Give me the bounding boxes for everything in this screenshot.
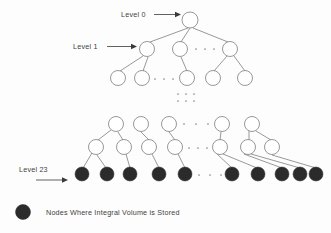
edge-l21a-to-l22a <box>98 130 111 140</box>
edge-l1a-to-l2b <box>143 57 148 71</box>
ellipsis-dot <box>163 78 165 80</box>
ellipsis-level23 <box>198 174 222 176</box>
ellipsis-dot <box>213 48 215 50</box>
edge-l22a-to-l23b <box>97 155 106 168</box>
edge-l22d-to-l23e <box>178 154 185 168</box>
ellipsis-dot <box>195 123 197 125</box>
ellipsis-dot <box>177 93 179 95</box>
ellipsis-dot <box>172 78 174 80</box>
edge-l22b-to-l23c <box>126 154 130 168</box>
ellipsis-level1 <box>195 48 215 50</box>
edge-l21a-to-l22b <box>118 132 123 140</box>
edge-l1c-to-l2d <box>214 56 227 71</box>
node-level1-1 <box>140 42 155 57</box>
level-23-nodes <box>75 167 323 181</box>
level-0-arrow-head-icon <box>175 12 181 18</box>
node-level21-3 <box>162 117 177 132</box>
level-23-label: Level 23 <box>19 165 48 174</box>
ellipsis-dot <box>177 100 179 102</box>
edges-bottom-tree-lower <box>83 153 316 168</box>
level-0-label: Level 0 <box>121 10 146 19</box>
node-level21-5 <box>245 117 260 132</box>
ellipsis-dot <box>207 123 209 125</box>
node-level23-6 <box>225 167 239 181</box>
edge-l22e-to-l23f <box>217 154 232 168</box>
node-level2-4 <box>206 71 221 86</box>
level-1-nodes <box>140 42 238 57</box>
node-level22-4 <box>168 140 183 155</box>
node-level1-2 <box>173 42 188 57</box>
ellipsis-dot <box>193 93 195 95</box>
ellipsis-level22 <box>188 147 208 149</box>
level-23-arrow-head-icon <box>62 177 68 183</box>
edges-bottom-tree-upper <box>98 130 271 140</box>
level-1-arrow-head-icon <box>131 44 137 50</box>
node-level23-9 <box>293 167 307 181</box>
node-level21-1 <box>109 117 124 132</box>
node-level21-4 <box>215 117 230 132</box>
ellipsis-level21 <box>183 123 209 125</box>
ellipsis-dot <box>154 78 156 80</box>
ellipsis-dot <box>197 147 199 149</box>
level-0-nodes <box>182 12 198 28</box>
node-level23-4 <box>152 167 166 181</box>
node-level23-7 <box>251 167 265 181</box>
edge-l1c-to-l2e <box>234 56 245 71</box>
ellipsis-dot <box>195 48 197 50</box>
ellipsis-dot <box>193 100 195 102</box>
node-level23-1 <box>75 167 89 181</box>
edge-l22c-to-l23d <box>152 154 159 168</box>
edge-l21c-to-l22d <box>169 132 175 140</box>
node-level2-5 <box>238 71 253 86</box>
ellipsis-dot <box>183 123 185 125</box>
ellipsis-dot <box>206 147 208 149</box>
edge-root-to-l1-c <box>193 28 228 42</box>
node-level22-2 <box>117 140 132 155</box>
ellipsis-dot <box>198 174 200 176</box>
tree-diagram-figure: Level 0 Level 1 Level 23 Nodes Where Int… <box>0 0 331 233</box>
node-level22-6 <box>241 140 256 155</box>
legend: Nodes Where Integral Volume is Stored <box>16 205 180 220</box>
ellipsis-dot <box>204 48 206 50</box>
node-level22-1 <box>89 140 104 155</box>
level-1-annotation: Level 1 <box>73 42 137 51</box>
node-level2-1 <box>111 71 126 86</box>
edge-l21b-to-l22c <box>141 132 149 140</box>
edge-l21d-to-l22e <box>220 132 221 140</box>
tree-diagram-canvas: Level 0 Level 1 Level 23 Nodes Where Int… <box>0 0 331 233</box>
node-level23-10 <box>309 167 323 181</box>
level-2-nodes <box>111 71 253 86</box>
node-level23-2 <box>100 167 114 181</box>
ellipsis-dot <box>188 147 190 149</box>
legend-filled-circle-icon <box>16 205 31 220</box>
node-level0-root <box>182 12 198 28</box>
node-level21-2 <box>134 117 149 132</box>
edge-l21e-to-l22g <box>256 131 271 140</box>
ellipsis-dot <box>209 174 211 176</box>
level-1-label: Level 1 <box>73 42 98 51</box>
ellipsis-vertical-middle <box>177 93 195 102</box>
ellipsis-dot <box>185 93 187 95</box>
edge-l22a-to-l23a <box>83 153 92 168</box>
node-level2-2 <box>135 71 150 86</box>
node-level22-3 <box>142 140 157 155</box>
ellipsis-dot <box>220 174 222 176</box>
edge-l22e-to-l23g <box>223 154 257 168</box>
node-level22-5 <box>213 140 228 155</box>
level-22-nodes <box>89 140 280 155</box>
legend-text: Nodes Where Integral Volume is Stored <box>46 208 180 217</box>
ellipsis-level2 <box>154 78 174 80</box>
node-level23-3 <box>123 167 137 181</box>
node-level23-5 <box>178 167 192 181</box>
edge-l1a-to-l2a <box>120 56 143 71</box>
level-23-annotation: Level 23 <box>19 165 68 183</box>
edge-l1b-to-l2c <box>181 57 187 71</box>
level-0-annotation: Level 0 <box>121 10 181 19</box>
node-level23-8 <box>275 167 289 181</box>
ellipsis-dot <box>185 100 187 102</box>
node-level22-7 <box>265 140 280 155</box>
node-level2-3 <box>180 71 195 86</box>
node-level1-3 <box>223 42 238 57</box>
